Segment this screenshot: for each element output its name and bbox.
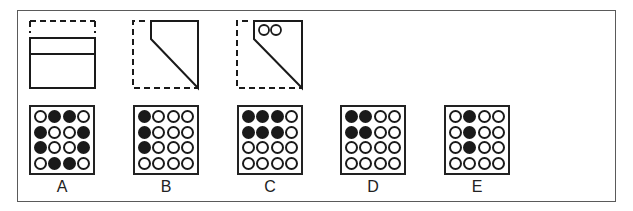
empty-hole-icon	[388, 126, 401, 139]
empty-hole-icon	[138, 157, 151, 170]
empty-hole-icon	[492, 157, 505, 170]
empty-hole-icon	[181, 141, 194, 154]
filled-hole-icon	[345, 126, 358, 139]
empty-hole-icon	[449, 110, 462, 123]
empty-hole-icon	[152, 141, 165, 154]
filled-hole-icon	[77, 141, 90, 154]
empty-hole-icon	[34, 110, 47, 123]
panel-3-punched-holes	[237, 21, 302, 88]
empty-hole-icon	[449, 126, 462, 139]
empty-hole-icon	[167, 141, 180, 154]
filled-hole-icon	[271, 110, 284, 123]
empty-hole-icon	[388, 141, 401, 154]
option-e-grid[interactable]	[444, 105, 510, 175]
empty-hole-icon	[449, 141, 462, 154]
empty-hole-icon	[388, 157, 401, 170]
filled-hole-icon	[138, 126, 151, 139]
empty-hole-icon	[152, 126, 165, 139]
filled-hole-icon	[138, 110, 151, 123]
filled-hole-icon	[359, 110, 372, 123]
empty-hole-icon	[181, 110, 194, 123]
filled-hole-icon	[242, 110, 255, 123]
empty-hole-icon	[271, 157, 284, 170]
empty-hole-icon	[271, 141, 284, 154]
empty-hole-icon	[345, 157, 358, 170]
empty-hole-icon	[242, 141, 255, 154]
option-c-label[interactable]: C	[237, 178, 303, 196]
empty-hole-icon	[181, 157, 194, 170]
empty-hole-icon	[374, 126, 387, 139]
option-a-label[interactable]: A	[29, 178, 95, 196]
empty-hole-icon	[285, 126, 298, 139]
filled-hole-icon	[463, 126, 476, 139]
filled-hole-icon	[34, 126, 47, 139]
empty-hole-icon	[285, 157, 298, 170]
hole-icon	[259, 25, 269, 35]
filled-hole-icon	[359, 126, 372, 139]
empty-hole-icon	[63, 126, 76, 139]
filled-hole-icon	[63, 157, 76, 170]
option-d-label[interactable]: D	[340, 178, 406, 196]
empty-hole-icon	[285, 141, 298, 154]
option-d-grid[interactable]	[340, 105, 406, 175]
empty-hole-icon	[478, 157, 491, 170]
empty-hole-icon	[48, 141, 61, 154]
empty-hole-icon	[492, 110, 505, 123]
empty-hole-icon	[463, 157, 476, 170]
empty-hole-icon	[181, 126, 194, 139]
empty-hole-icon	[63, 141, 76, 154]
empty-hole-icon	[77, 110, 90, 123]
filled-hole-icon	[256, 110, 269, 123]
empty-hole-icon	[478, 110, 491, 123]
filled-hole-icon	[463, 141, 476, 154]
empty-hole-icon	[374, 110, 387, 123]
option-b-grid[interactable]	[133, 105, 199, 175]
empty-hole-icon	[167, 157, 180, 170]
filled-hole-icon	[77, 126, 90, 139]
empty-hole-icon	[77, 157, 90, 170]
empty-hole-icon	[374, 157, 387, 170]
empty-hole-icon	[478, 141, 491, 154]
option-e-label[interactable]: E	[444, 178, 510, 196]
empty-hole-icon	[388, 110, 401, 123]
empty-hole-icon	[478, 126, 491, 139]
empty-hole-icon	[285, 110, 298, 123]
empty-hole-icon	[242, 157, 255, 170]
empty-hole-icon	[34, 157, 47, 170]
empty-hole-icon	[256, 157, 269, 170]
empty-hole-icon	[449, 157, 462, 170]
option-c-grid[interactable]	[237, 105, 303, 175]
panel-1-unfolded-paper	[30, 21, 95, 88]
empty-hole-icon	[152, 157, 165, 170]
filled-hole-icon	[48, 110, 61, 123]
filled-hole-icon	[138, 141, 151, 154]
filled-hole-icon	[271, 126, 284, 139]
filled-hole-icon	[48, 157, 61, 170]
empty-hole-icon	[359, 141, 372, 154]
filled-hole-icon	[256, 126, 269, 139]
option-a-grid[interactable]	[29, 105, 95, 175]
hole-icon	[271, 25, 281, 35]
empty-hole-icon	[359, 157, 372, 170]
empty-hole-icon	[345, 141, 358, 154]
filled-hole-icon	[345, 110, 358, 123]
filled-hole-icon	[463, 110, 476, 123]
empty-hole-icon	[48, 126, 61, 139]
panel-2-diagonal-fold	[133, 21, 198, 88]
option-b-label[interactable]: B	[133, 178, 199, 196]
filled-hole-icon	[63, 110, 76, 123]
empty-hole-icon	[167, 110, 180, 123]
filled-hole-icon	[242, 126, 255, 139]
empty-hole-icon	[492, 126, 505, 139]
empty-hole-icon	[152, 110, 165, 123]
empty-hole-icon	[374, 141, 387, 154]
empty-hole-icon	[256, 141, 269, 154]
filled-hole-icon	[34, 141, 47, 154]
empty-hole-icon	[492, 141, 505, 154]
empty-hole-icon	[167, 126, 180, 139]
